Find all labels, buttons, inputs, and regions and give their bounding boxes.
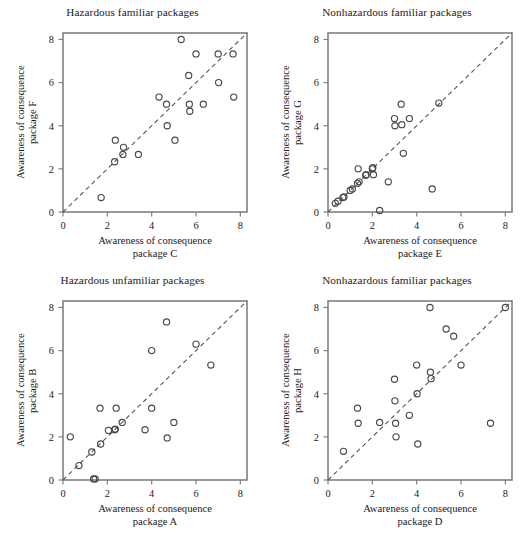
svg-text:8: 8 (314, 34, 319, 45)
plot-area: 0246802468 Awareness of consequence pack… (0, 0, 265, 268)
svg-text:0: 0 (60, 488, 65, 499)
y-axis-label: Awareness of consequence package G (280, 33, 308, 212)
svg-text:0: 0 (49, 207, 54, 218)
svg-text:0: 0 (49, 475, 54, 486)
svg-text:8: 8 (503, 488, 508, 499)
svg-text:0: 0 (325, 220, 330, 231)
svg-text:8: 8 (314, 302, 319, 313)
svg-text:2: 2 (314, 164, 319, 175)
svg-text:2: 2 (105, 488, 110, 499)
x-axis-label: Awareness of consequence package C (45, 235, 265, 260)
plot-area: 0246802468 Awareness of consequence pack… (0, 268, 265, 536)
figure-panel-grid: Hazardous familiar packages 0246802468 A… (0, 0, 529, 536)
svg-text:0: 0 (325, 488, 330, 499)
svg-text:4: 4 (49, 389, 55, 400)
svg-text:6: 6 (193, 488, 198, 499)
x-axis-label: Awareness of consequence package D (310, 503, 529, 528)
svg-text:6: 6 (49, 77, 54, 88)
svg-text:8: 8 (238, 488, 243, 499)
svg-text:2: 2 (49, 432, 54, 443)
svg-text:4: 4 (314, 389, 320, 400)
y-axis-label: Awareness of consequence package B (15, 301, 43, 480)
svg-text:6: 6 (458, 488, 463, 499)
svg-text:6: 6 (314, 77, 319, 88)
svg-text:2: 2 (370, 488, 375, 499)
panel-hazardous-unfamiliar: Hazardous unfamiliar packages 0246802468… (0, 268, 265, 536)
svg-text:4: 4 (49, 121, 55, 132)
svg-text:6: 6 (314, 345, 319, 356)
svg-text:8: 8 (49, 302, 54, 313)
svg-text:0: 0 (314, 475, 319, 486)
y-axis-label: Awareness of consequence package H (280, 301, 308, 480)
x-axis-label: Awareness of consequence package A (45, 503, 265, 528)
plot-area: 0246802468 Awareness of consequence pack… (265, 268, 529, 536)
svg-text:2: 2 (105, 220, 110, 231)
svg-text:6: 6 (193, 220, 198, 231)
x-axis-label: Awareness of consequence package E (310, 235, 529, 260)
y-axis-label: Awareness of consequence package F (15, 33, 43, 212)
svg-text:8: 8 (503, 220, 508, 231)
panel-nonhazardous-familiar-eg: Nonhazardous familiar packages 024680246… (265, 0, 529, 268)
svg-text:8: 8 (49, 34, 54, 45)
panel-hazardous-familiar: Hazardous familiar packages 0246802468 A… (0, 0, 265, 268)
plot-area: 0246802468 Awareness of consequence pack… (265, 0, 529, 268)
svg-text:4: 4 (314, 121, 320, 132)
svg-text:0: 0 (60, 220, 65, 231)
svg-text:8: 8 (238, 220, 243, 231)
svg-text:0: 0 (314, 207, 319, 218)
svg-text:4: 4 (414, 488, 420, 499)
panel-nonhazardous-familiar-dh: Nonhazardous familiar packages 024680246… (265, 268, 529, 536)
svg-text:6: 6 (49, 345, 54, 356)
svg-text:4: 4 (149, 220, 155, 231)
svg-text:4: 4 (414, 220, 420, 231)
svg-text:6: 6 (458, 220, 463, 231)
svg-text:2: 2 (49, 164, 54, 175)
svg-text:2: 2 (370, 220, 375, 231)
svg-text:2: 2 (314, 432, 319, 443)
svg-text:4: 4 (149, 488, 155, 499)
